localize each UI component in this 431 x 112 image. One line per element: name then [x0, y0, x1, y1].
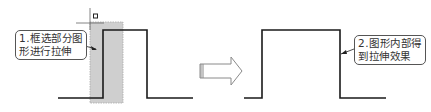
selection-window [90, 22, 123, 103]
callout-text-line: 1.框选部分图 [19, 32, 83, 45]
callout-step-2: 2.图形内部得 到拉伸效果 [354, 35, 426, 65]
callout-text-line: 形进行拉伸 [19, 45, 83, 58]
callout-text-line: 2.图形内部得 [358, 37, 422, 50]
callout-step-1: 1.框选部分图 形进行拉伸 [15, 30, 87, 60]
callout-text-line: 到拉伸效果 [358, 50, 422, 63]
right-arrow-icon [200, 57, 242, 85]
leader-arrowhead-icon [341, 50, 347, 54]
